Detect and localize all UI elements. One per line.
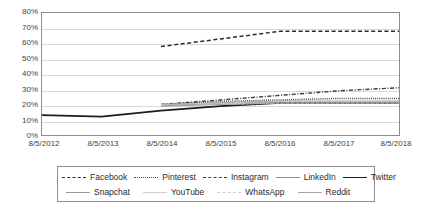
- legend-label: LinkedIn: [304, 173, 336, 182]
- y-axis-tick: 30%: [0, 86, 38, 94]
- x-axis-tick: 8/5/2017: [323, 139, 354, 148]
- legend-swatch-twitter: [343, 174, 367, 181]
- legend-item-whatsapp[interactable]: WhatsApp: [217, 188, 284, 197]
- x-axis-tick: 8/5/2016: [264, 139, 295, 148]
- legend-item-reddit[interactable]: Reddit: [298, 188, 351, 197]
- legend-item-instagram[interactable]: Instagram: [203, 173, 269, 182]
- legend-swatch-instagram: [203, 174, 227, 181]
- legend-swatch-pinterest: [134, 174, 158, 181]
- legend-item-snapchat[interactable]: Snapchat: [66, 188, 130, 197]
- y-axis-tick: 50%: [0, 55, 38, 63]
- x-axis-tick: 8/5/2014: [146, 139, 177, 148]
- y-axis: 80% 70% 60% 50% 40% 30% 20% 10% 0%: [0, 12, 38, 136]
- legend-row: Snapchat YouTube WhatsApp Reddit: [62, 185, 370, 200]
- chart-legend: Facebook Pinterest Instagram LinkedIn Tw…: [57, 166, 375, 202]
- legend-label: Instagram: [231, 173, 269, 182]
- legend-label: WhatsApp: [245, 188, 284, 197]
- legend-item-youtube[interactable]: YouTube: [143, 188, 204, 197]
- y-axis-tick: 40%: [0, 70, 38, 78]
- legend-swatch-facebook: [62, 174, 86, 181]
- legend-label: Reddit: [326, 188, 351, 197]
- legend-swatch-snapchat: [66, 189, 90, 196]
- legend-item-facebook[interactable]: Facebook: [62, 173, 127, 182]
- y-axis-tick: 70%: [0, 24, 38, 32]
- legend-row: Facebook Pinterest Instagram LinkedIn Tw…: [62, 170, 370, 185]
- legend-item-twitter[interactable]: Twitter: [343, 173, 396, 182]
- legend-swatch-reddit: [298, 189, 322, 196]
- line-chart: 80% 70% 60% 50% 40% 30% 20% 10% 0% 8/5/2…: [0, 0, 431, 210]
- y-axis-tick: 10%: [0, 117, 38, 125]
- legend-label: YouTube: [171, 188, 204, 197]
- legend-label: Facebook: [90, 173, 127, 182]
- y-axis-tick: 80%: [0, 8, 38, 16]
- series-lines: [42, 13, 399, 135]
- x-axis-tick: 8/5/2012: [28, 139, 59, 148]
- legend-swatch-linkedin: [276, 174, 300, 181]
- x-axis: 8/5/2012 8/5/2013 8/5/2014 8/5/2015 8/5/…: [41, 139, 400, 151]
- x-axis-tick: 8/5/2018: [380, 139, 411, 148]
- x-axis-tick: 8/5/2015: [205, 139, 236, 148]
- legend-item-pinterest[interactable]: Pinterest: [134, 173, 196, 182]
- series-line-facebook: [161, 31, 399, 46]
- plot-area: [41, 12, 400, 136]
- x-axis-tick: 8/5/2013: [87, 139, 118, 148]
- legend-label: Twitter: [371, 173, 396, 182]
- y-axis-tick: 20%: [0, 101, 38, 109]
- y-axis-tick: 60%: [0, 39, 38, 47]
- legend-swatch-whatsapp: [217, 189, 241, 196]
- legend-item-linkedin[interactable]: LinkedIn: [276, 173, 336, 182]
- legend-label: Pinterest: [162, 173, 196, 182]
- legend-label: Snapchat: [94, 188, 130, 197]
- legend-swatch-youtube: [143, 189, 167, 196]
